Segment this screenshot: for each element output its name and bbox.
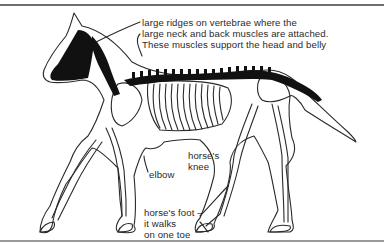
label-line: on one toe <box>144 229 203 240</box>
label-foot: horse's foot – it walks on one toe <box>144 207 203 240</box>
label-line: large neck and back muscles are attached… <box>142 28 328 39</box>
label-vertebrae-ridges: large ridges on vertebrae where the larg… <box>142 17 328 50</box>
label-line: knee <box>188 161 219 172</box>
label-line: it walks <box>144 218 203 229</box>
label-line: horse's foot – <box>144 207 203 218</box>
label-line: large ridges on vertebrae where the <box>142 17 328 28</box>
leader-line-elbow <box>144 156 148 172</box>
front-leg-bone-left <box>106 128 122 216</box>
label-line: These muscles support the head and belly <box>142 39 328 50</box>
hind-leg-bone-right <box>272 104 284 222</box>
ribcage <box>148 81 232 131</box>
label-knee: horse's knee <box>188 150 219 172</box>
label-elbow: elbow <box>149 169 175 180</box>
hoof-hind-right <box>270 225 290 232</box>
label-line: horse's <box>188 150 219 161</box>
figure-frame: large ridges on vertebrae where the larg… <box>0 0 384 244</box>
hoof-front-right <box>118 223 132 232</box>
skull-highlight <box>50 30 94 81</box>
